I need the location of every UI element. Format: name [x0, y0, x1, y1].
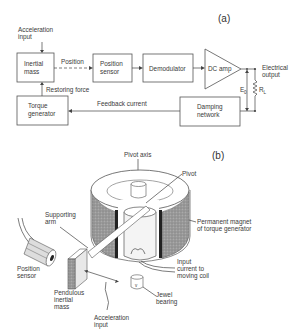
svg-text:inertial: inertial [54, 296, 73, 303]
acceleration-input-label-b: Acceleration [94, 314, 130, 321]
pendulous-mass-label: Pendulous [54, 289, 84, 296]
svg-text:Torque: Torque [28, 102, 48, 110]
electrical-output-label: Electrical [262, 64, 288, 71]
position-sensor-label-b: Position [17, 265, 40, 272]
inertial-mass-block: Inertial mass [17, 53, 54, 82]
svg-text:of torque generator: of torque generator [197, 225, 252, 233]
svg-text:DC amp: DC amp [208, 65, 232, 73]
pivot-label: Pivot [182, 170, 196, 177]
svg-text:Inertial: Inertial [24, 60, 43, 67]
svg-text:L: L [264, 90, 267, 95]
svg-text:sensor: sensor [100, 68, 120, 75]
svg-text:input: input [18, 33, 32, 41]
position-sensor-cylinder [18, 218, 58, 267]
panel-a-label: (a) [218, 13, 230, 24]
svg-text:generator: generator [28, 110, 56, 118]
svg-text:Demodulator: Demodulator [149, 65, 186, 72]
svg-text:mass: mass [54, 303, 69, 310]
position-sensor-block: Position sensor [93, 54, 132, 82]
pendulous-mass [68, 249, 87, 289]
svg-text:input: input [94, 321, 108, 329]
svg-text:output: output [262, 71, 280, 79]
svg-text:network: network [197, 111, 220, 118]
panel-b-illustration: (b) Pivot axis [17, 150, 252, 329]
svg-text:Position: Position [100, 60, 123, 67]
dc-amp-block: DC amp [205, 49, 241, 89]
jewel-bearing-label: Jewel [156, 291, 172, 298]
restoring-force-label: Restoring force [46, 86, 90, 94]
svg-text:bearing: bearing [156, 298, 178, 306]
accelerometer-figure: (a) Acceleration input Inertial mass Pos… [0, 0, 295, 334]
lower-jewel-bearing: v [131, 275, 143, 289]
svg-text:moving coil: moving coil [177, 272, 209, 280]
svg-text:0: 0 [244, 90, 247, 95]
feedback-current-label: Feedback current [97, 100, 147, 107]
pivot-axis-label: Pivot axis [124, 151, 151, 158]
position-signal-label: Position [61, 58, 84, 65]
svg-text:mass: mass [24, 68, 39, 75]
upper-bearing [131, 182, 146, 199]
svg-text:sensor: sensor [17, 272, 37, 279]
torque-generator-block: Torque generator [17, 96, 68, 125]
svg-text:arm: arm [45, 218, 56, 225]
acceleration-input-label-a: Acceleration [18, 26, 54, 33]
svg-text:Damping: Damping [197, 103, 223, 111]
damping-network-block: Damping network [180, 97, 240, 126]
svg-text:current to: current to [177, 265, 204, 272]
panel-b-label: (b) [212, 150, 224, 161]
load-resistor [253, 69, 257, 111]
panel-a-block-diagram: (a) Acceleration input Inertial mass Pos… [17, 13, 288, 126]
demodulator-block: Demodulator [143, 54, 193, 82]
